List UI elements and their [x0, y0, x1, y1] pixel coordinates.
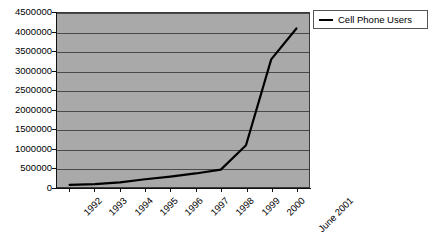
x-axis-tick-label: 1996 — [182, 195, 205, 218]
x-axis-tick — [247, 188, 248, 192]
x-axis-tick-label: June 2001 — [316, 195, 355, 234]
y-axis-tick-label: 3500000 — [0, 46, 52, 56]
y-axis-tick — [52, 51, 56, 52]
x-axis-tick — [196, 188, 197, 192]
legend-item-label: Cell Phone Users — [338, 14, 412, 25]
y-axis-tick-label: 3000000 — [0, 66, 52, 76]
y-axis-tick-label: 1500000 — [0, 124, 52, 134]
series-line-cell-phone-users — [57, 13, 309, 187]
x-axis-tick-label: 1997 — [208, 195, 231, 218]
x-axis-tick-label: 1992 — [81, 195, 104, 218]
y-axis-line — [56, 12, 57, 189]
x-axis-tick — [297, 188, 298, 192]
x-axis-tick-label: 2000 — [284, 195, 307, 218]
x-axis-tick — [145, 188, 146, 192]
x-axis-tick-label: 1994 — [132, 195, 155, 218]
y-axis-tick — [52, 71, 56, 72]
y-axis-tick — [52, 90, 56, 91]
y-axis-tick-label: 500000 — [0, 163, 52, 173]
legend: Cell Phone Users — [313, 10, 428, 29]
y-axis-tick-label: 4000000 — [0, 27, 52, 37]
series-polyline — [70, 28, 297, 184]
y-axis-tick — [52, 110, 56, 111]
y-axis-tick — [52, 149, 56, 150]
y-axis-tick-label: 2000000 — [0, 105, 52, 115]
x-axis-tick-label: 1998 — [233, 195, 256, 218]
y-axis-tick — [52, 12, 56, 13]
y-axis-tick-label: 4500000 — [0, 7, 52, 17]
y-axis-tick — [52, 188, 56, 189]
x-axis-tick — [272, 188, 273, 192]
legend-line-swatch-icon — [319, 19, 333, 21]
x-axis-tick — [170, 188, 171, 192]
plot-area — [56, 12, 310, 188]
y-axis-tick — [52, 168, 56, 169]
x-axis-tick — [94, 188, 95, 192]
y-axis-tick — [52, 129, 56, 130]
y-axis-tick-label: 0 — [0, 183, 52, 193]
chart-figure: 0500000100000015000002000000250000030000… — [0, 0, 434, 248]
x-axis-tick-label: 1999 — [259, 195, 282, 218]
y-axis-labels: 0500000100000015000002000000250000030000… — [0, 0, 52, 248]
x-axis-tick — [221, 188, 222, 192]
x-axis-tick-label: 1993 — [106, 195, 129, 218]
y-axis-tick-label: 1000000 — [0, 144, 52, 154]
x-axis-tick — [120, 188, 121, 192]
y-axis-tick-label: 2500000 — [0, 85, 52, 95]
y-axis-tick — [52, 32, 56, 33]
x-axis-tick-label: 1995 — [157, 195, 180, 218]
x-axis-tick — [69, 188, 70, 192]
